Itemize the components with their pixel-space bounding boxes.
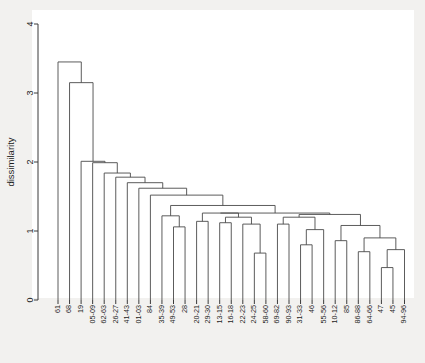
- leaf-label: 22-23: [238, 305, 247, 323]
- leaf-label: 86-88: [353, 305, 362, 323]
- leaf-label: 68: [64, 305, 73, 313]
- leaf-label: 24-25: [249, 305, 258, 323]
- leaf-label: 58-60: [261, 305, 270, 323]
- leaf-label: 46: [307, 305, 316, 313]
- leaf-label: 13-15: [215, 305, 224, 323]
- leaf-label: 55-56: [319, 305, 328, 323]
- y-axis-tick-label: 1: [25, 228, 35, 233]
- leaf-label: 85: [342, 305, 351, 313]
- leaf-label: 90-93: [284, 305, 293, 323]
- plot-panel: [32, 10, 414, 298]
- leaf-label: 16-18: [226, 305, 235, 323]
- leaf-label: 20-21: [192, 305, 201, 323]
- leaf-label: 69-82: [272, 305, 281, 323]
- y-axis-title: dissimilarity: [5, 137, 16, 186]
- y-axis-tick-label: 2: [25, 159, 35, 164]
- leaf-label: 62-63: [99, 305, 108, 323]
- leaf-label: 61: [53, 305, 62, 313]
- leaf-label: 10-12: [330, 305, 339, 323]
- leaf-label: 94-96: [399, 305, 408, 323]
- leaf-label: 35-39: [157, 305, 166, 323]
- y-axis-tick-label: 3: [25, 90, 35, 95]
- leaf-label: 26-27: [111, 305, 120, 323]
- leaf-label: 84: [145, 305, 154, 313]
- leaf-label: 28: [180, 305, 189, 313]
- leaf-label: 41-43: [122, 305, 131, 323]
- leaf-label: 31-33: [295, 305, 304, 323]
- leaf-label: 05-09: [88, 305, 97, 323]
- y-axis-tick-label: 4: [25, 21, 35, 26]
- leaf-label: 47: [376, 305, 385, 313]
- leaf-label: 45: [388, 305, 397, 313]
- dendrogram-plot: 01234 61681905-0962-6326-2741-4301-03843…: [0, 0, 425, 363]
- leaf-label: 29-30: [203, 305, 212, 323]
- leaf-label: 19: [76, 305, 85, 313]
- leaf-label: 01-03: [134, 305, 143, 323]
- leaf-label: 49-53: [168, 305, 177, 323]
- y-axis-tick-label: 0: [25, 297, 35, 302]
- dendrogram-figure: 01234 61681905-0962-6326-2741-4301-03843…: [0, 0, 425, 363]
- leaf-labels: 61681905-0962-6326-2741-4301-038435-3949…: [53, 305, 409, 323]
- leaf-label: 64-66: [365, 305, 374, 323]
